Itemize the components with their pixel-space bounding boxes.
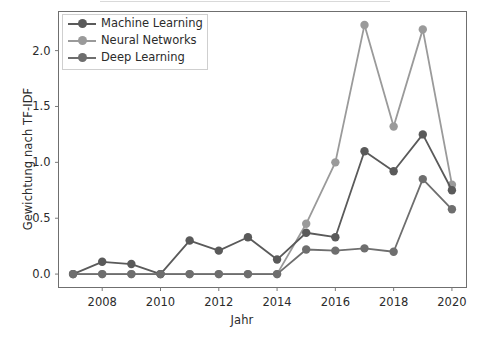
- legend-label-neural-networks: Neural Networks: [101, 35, 197, 47]
- legend-item-deep-learning[interactable]: Deep Learning: [63, 49, 207, 66]
- legend-marker-machine-learning: [68, 18, 96, 30]
- x-tick-label: 2018: [364, 295, 424, 309]
- data-point: [448, 186, 456, 194]
- data-point: [185, 270, 193, 278]
- data-point: [331, 233, 339, 241]
- x-tick-label: 2010: [131, 295, 191, 309]
- x-tick-label: 2014: [247, 295, 307, 309]
- data-point: [360, 21, 368, 29]
- data-point: [244, 270, 252, 278]
- legend-marker-deep-learning: [68, 52, 96, 64]
- data-point: [389, 248, 397, 256]
- data-point: [419, 25, 427, 33]
- data-point: [69, 270, 77, 278]
- legend-label-deep-learning: Deep Learning: [101, 52, 185, 64]
- data-point: [360, 147, 368, 155]
- chart-figure: Gewichtung nach TF-IDF Jahr 0.00.51.01.5…: [0, 0, 484, 338]
- y-tick-label: 1.5: [11, 99, 51, 113]
- legend-label-machine-learning: Machine Learning: [101, 18, 203, 30]
- x-axis-label: Jahr: [0, 313, 484, 327]
- legend-item-neural-networks[interactable]: Neural Networks: [63, 32, 207, 49]
- legend-item-machine-learning[interactable]: Machine Learning: [63, 15, 207, 32]
- x-tick-label: 2012: [189, 295, 249, 309]
- x-tick-label: 2016: [305, 295, 365, 309]
- data-point: [273, 270, 281, 278]
- legend-marker-neural-networks: [68, 35, 96, 47]
- y-tick-marks: [55, 51, 59, 274]
- data-point: [419, 130, 427, 138]
- y-tick-label: 0.0: [11, 267, 51, 281]
- data-point: [185, 236, 193, 244]
- data-point: [215, 270, 223, 278]
- chart-legend: Machine Learning Neural Networks Deep Le…: [62, 14, 208, 70]
- data-point: [302, 229, 310, 237]
- y-tick-label: 2.0: [11, 44, 51, 58]
- data-point: [302, 220, 310, 228]
- y-tick-label: 1.0: [11, 155, 51, 169]
- data-point: [98, 258, 106, 266]
- data-point: [273, 255, 281, 263]
- data-point: [331, 246, 339, 254]
- data-point: [448, 205, 456, 213]
- data-point: [244, 233, 252, 241]
- data-point: [127, 260, 135, 268]
- x-tick-marks: [102, 288, 452, 292]
- data-point: [302, 245, 310, 253]
- data-point: [389, 122, 397, 130]
- x-tick-label: 2008: [72, 295, 132, 309]
- data-point: [215, 246, 223, 254]
- data-point: [127, 270, 135, 278]
- y-tick-label: 0.5: [11, 211, 51, 225]
- data-point: [331, 158, 339, 166]
- data-point: [419, 175, 427, 183]
- x-tick-label: 2020: [422, 295, 482, 309]
- data-point: [98, 270, 106, 278]
- data-point: [156, 270, 164, 278]
- data-point: [389, 167, 397, 175]
- data-point: [360, 244, 368, 252]
